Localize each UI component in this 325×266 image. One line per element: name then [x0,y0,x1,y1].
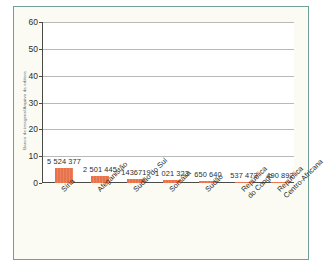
bar-slot: 1436719 [127,22,146,183]
bar-slot: 5 524 377 [55,22,74,183]
x-axis-labels: SíriaAfeganistãoSudão do SulSomáliaSudão… [42,183,294,266]
y-axis-tick-label: 50 [29,44,38,54]
y-axis-tick-label: 40 [29,71,38,81]
y-axis-tick-label: 20 [29,124,38,134]
bar-value-label: 5 524 377 [47,157,81,166]
plot-area: 0102030405060 5 524 3772 501 44514367191… [42,22,294,183]
bars-group: 5 524 3772 501 44514367191 021 323650 64… [42,22,294,183]
y-axis-tick-label: 0 [33,178,38,188]
y-axis-tick-label: 10 [29,151,38,161]
y-axis-tick-label: 60 [29,17,38,27]
bar-slot: 650 640 [199,22,218,183]
bar-slot: 537 473 [235,22,254,183]
bar-slot: 490 892 [271,22,290,183]
plot-wrapper: Milhões 0102030405060 5 524 3772 501 445… [42,22,294,208]
image-credit-label: Banco de imagens/Arquivo da editora [22,31,27,191]
y-axis-tick-label: 30 [29,98,38,108]
bar-slot: 2 501 445 [91,22,110,183]
